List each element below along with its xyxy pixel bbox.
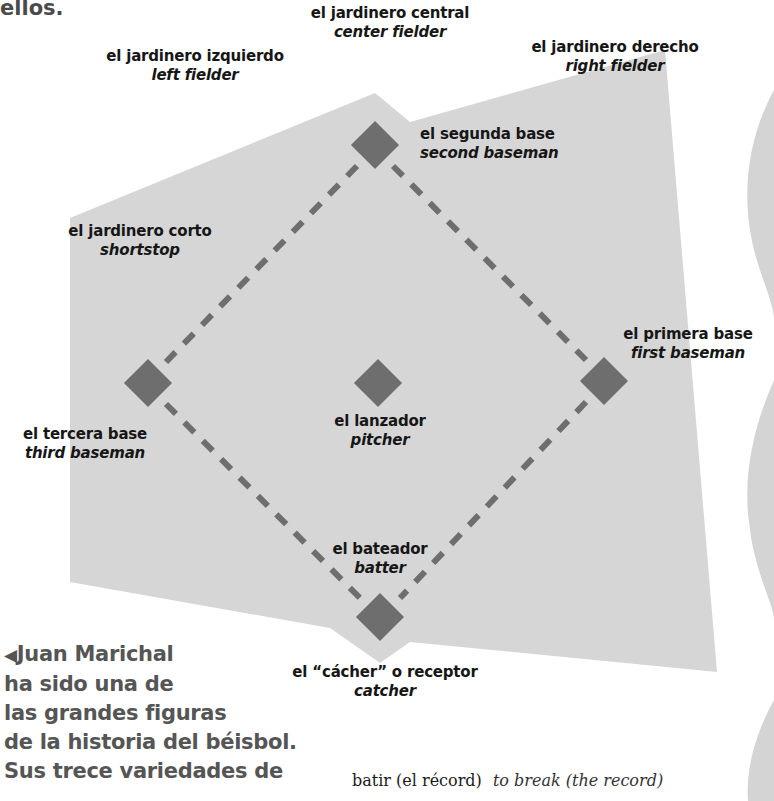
caption-line-2: ha sido una de	[4, 670, 297, 699]
label-es: el jardinero central	[300, 4, 480, 23]
label-es: el segunda base	[420, 125, 610, 144]
label-es: el lanzador	[300, 412, 460, 431]
label-left-fielder: el jardinero izquierdo left fielder	[70, 47, 320, 85]
label-en: center fielder	[300, 23, 480, 42]
label-en: third baseman	[0, 444, 170, 463]
label-es: el tercera base	[0, 425, 170, 444]
label-en: second baseman	[420, 144, 610, 163]
label-es: el jardinero izquierdo	[70, 47, 320, 66]
label-es: el jardinero derecho	[495, 38, 735, 57]
label-en: shortstop	[40, 241, 240, 260]
label-es: el primera base	[598, 325, 774, 344]
label-en: batter	[300, 559, 460, 578]
label-first-baseman: el primera base first baseman	[598, 325, 774, 363]
label-es: el jardinero corto	[40, 222, 240, 241]
left-arrow-icon: ◀	[4, 645, 17, 665]
decorative-wave-shape	[747, 90, 774, 801]
caption-line-1: ◀Juan Marichal	[4, 640, 297, 670]
label-en: left fielder	[70, 66, 320, 85]
caption-line-5: Sus trece variedades de	[4, 757, 297, 786]
label-shortstop: el jardinero corto shortstop	[40, 222, 240, 260]
label-center-fielder: el jardinero central center fielder	[300, 4, 480, 42]
label-pitcher: el lanzador pitcher	[300, 412, 460, 450]
label-batter: el bateador batter	[300, 540, 460, 578]
photo-caption: ◀Juan Marichal ha sido una de las grande…	[4, 640, 297, 786]
caption-line-3: las grandes figuras	[4, 699, 297, 728]
label-third-baseman: el tercera base third baseman	[0, 425, 170, 463]
label-es: el bateador	[300, 540, 460, 559]
glossary-entry: batir (el récord) to break (the record)	[352, 771, 663, 790]
caption-line-4: de la historia del béisbol.	[4, 728, 297, 757]
glossary-translation: to break (the record)	[493, 771, 663, 790]
label-en: right fielder	[495, 57, 735, 76]
label-en: first baseman	[598, 344, 774, 363]
glossary-term: batir (el récord)	[352, 771, 482, 790]
label-second-baseman: el segunda base second baseman	[420, 125, 610, 163]
label-en: pitcher	[300, 431, 460, 450]
label-right-fielder: el jardinero derecho right fielder	[495, 38, 735, 76]
